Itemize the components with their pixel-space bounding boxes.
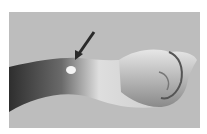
lump bbox=[66, 66, 76, 74]
wrist-illustration bbox=[9, 12, 200, 128]
wrist-photo bbox=[9, 12, 200, 128]
